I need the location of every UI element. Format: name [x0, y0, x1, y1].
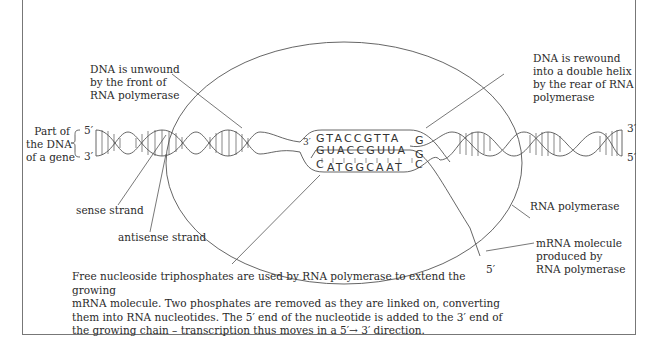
- left-dna-helix: [96, 130, 300, 156]
- label-dna-rewound: DNA is rewound into a double helix by th…: [533, 52, 634, 104]
- antisense-start: C: [316, 158, 326, 171]
- prime-right-top: 3′: [627, 122, 636, 134]
- label-rna-polymerase: RNA polymerase: [530, 200, 619, 213]
- right-dna-helix: [410, 130, 622, 160]
- antisense-end: C: [415, 158, 425, 171]
- caption: Free nucleoside triphosphates are used b…: [72, 270, 512, 338]
- prime-left-top: 5′: [84, 124, 93, 136]
- label-dna-unwound: DNA is unwound by the front of RNA polym…: [90, 63, 180, 102]
- label-mrna-molecule: mRNA molecule produced by RNA polymerase: [536, 237, 625, 276]
- label-antisense-strand: antisense strand: [118, 231, 206, 244]
- sense-strand-end: G: [415, 134, 426, 147]
- antisense-sequence: ATGGCAAT: [327, 161, 404, 174]
- mrna-sequence: GUACCGUUA: [316, 144, 407, 157]
- prime-left-bottom: 3′: [84, 150, 93, 162]
- label-sense-strand: sense strand: [76, 204, 144, 217]
- prime-bubble-left: 3′: [303, 137, 311, 147]
- prime-right-bottom: 5′: [627, 151, 636, 163]
- label-gene-part: Part of the DNA of a gene: [26, 125, 70, 164]
